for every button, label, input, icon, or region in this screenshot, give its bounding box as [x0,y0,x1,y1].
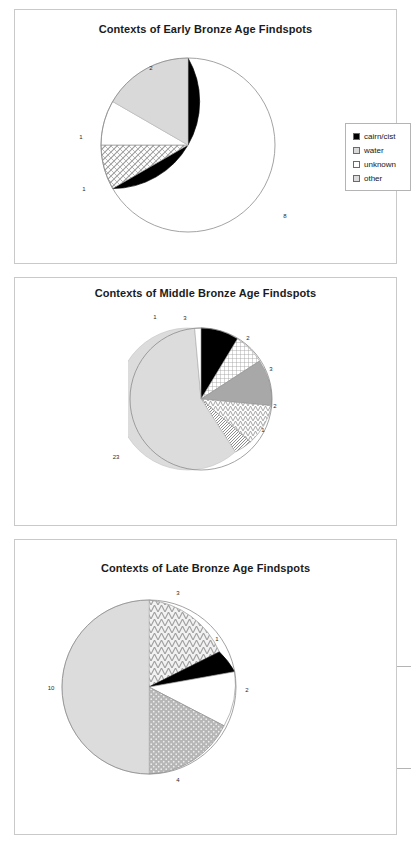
pie-label-peat-cutting: 1 [153,314,156,320]
pie-label-old-field-bank: 3 [183,315,186,321]
legend-swatch-unknown [353,161,360,168]
page-root: Contexts of Early Bronze Age Findspots [0,0,411,843]
legend-item-water[interactable]: water [353,143,404,157]
pie-label-water: 2 [273,403,276,409]
pie-chart-middle: 1 3 2 3 2 1 23 [128,326,274,472]
chart-title-early: Contexts of Early Bronze Age Findspots [15,23,396,35]
pie-label-other: 1 [82,186,85,192]
legend-label-unknown: unknown [364,160,396,169]
chart-panel-early-bronze-age: Contexts of Early Bronze Age Findspots [14,9,397,264]
chart-panel-late-bronze-age: Contexts of Late Bronze Age Findspots [14,539,397,835]
legend-label-water: water [364,146,384,155]
pie-label-excavation: 2 [245,687,248,693]
pie-label-unknown: 23 [113,454,120,460]
top-partial-caption [14,0,314,9]
pie-svg-late [60,598,238,776]
chart-title-late: Contexts of Late Bronze Age Findspots [15,562,396,574]
pie-label-under-rock: 2 [246,335,249,341]
pie-slice-unknown [62,600,149,774]
legend-item-unknown[interactable]: unknown [353,157,404,171]
pie-label-cairn-cist: 8 [283,213,286,219]
legend-item-cairn-cist[interactable]: cairn/cist [353,129,404,143]
pie-label-unknown: 10 [48,685,55,691]
pie-label-water: 3 [176,590,179,596]
pie-chart-early: 2 1 1 8 [99,56,277,234]
pie-svg-middle [128,326,274,472]
pie-label-hillfort: 4 [176,777,179,783]
pie-svg-early [99,56,277,234]
chart-title-middle: Contexts of Middle Bronze Age Findspots [15,287,396,299]
legend-swatch-water [353,147,360,154]
pie-label-quarry: 3 [269,366,272,372]
pie-chart-late: 3 1 2 4 10 [60,598,238,776]
pie-label-water: 2 [149,65,152,71]
legend-label-other: other [364,174,382,183]
legend-item-other[interactable]: other [353,171,404,185]
pie-label-unknown: 1 [79,134,82,140]
legend-swatch-other [353,175,360,182]
legend-swatch-cairn-cist [353,133,360,140]
pie-label-settlement: 1 [261,427,264,433]
legend-early-bronze-age: cairn/cist water unknown other [345,123,411,191]
pie-label-cave: 1 [215,636,218,642]
chart-panel-middle-bronze-age: Contexts of Middle Bronze Age Findspots [14,277,397,526]
legend-label-cairn-cist: cairn/cist [364,132,396,141]
